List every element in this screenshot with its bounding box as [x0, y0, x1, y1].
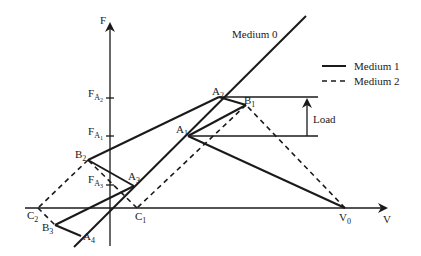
label-b1: B1 [244, 94, 255, 109]
legend-label-medium-1: Medium 1 [354, 60, 400, 72]
f-axis-label: F [100, 14, 106, 26]
dash-b2-c2 [38, 160, 88, 208]
dash-b1-c1 [137, 105, 246, 208]
label-a1: A1 [176, 123, 188, 138]
medium-2-paths [38, 105, 345, 225]
axes: F V FA2 FA1 FA3 [25, 14, 391, 246]
load-label: Load [313, 113, 336, 125]
v-axis-label: V [383, 213, 391, 225]
label-a4: A4 [83, 230, 95, 245]
label-v0: V0 [339, 211, 351, 226]
label-b3: B3 [42, 221, 53, 236]
segment-v0-a1 [188, 136, 345, 208]
tick-label-fa2: FA2 [88, 87, 103, 103]
label-c1: C1 [135, 210, 146, 225]
point-labels: A2 B1 A1 B2 A3 C1 C2 B3 A4 V0 [27, 85, 351, 245]
label-b2: B2 [75, 148, 86, 163]
medium-1-paths [55, 97, 345, 236]
segment-a3-b3 [55, 186, 134, 225]
segment-a2-b2 [88, 97, 219, 160]
legend-label-medium-2: Medium 2 [354, 75, 400, 87]
label-c2: C2 [27, 209, 38, 224]
segment-b3-a4 [55, 225, 81, 236]
medium-0-line [74, 16, 306, 247]
load-annotation: Load [188, 97, 336, 136]
tick-label-fa3: FA3 [88, 173, 103, 189]
legend: Medium 1 Medium 2 [322, 60, 400, 87]
wave-interaction-diagram: F V FA2 FA1 FA3 Medium 0 Load [0, 0, 421, 256]
medium-0-label: Medium 0 [232, 28, 278, 40]
tick-label-fa1: FA1 [88, 125, 103, 141]
